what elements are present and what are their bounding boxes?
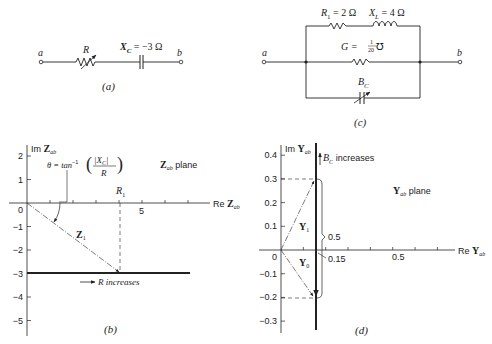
z1-label: Z1 [76,229,86,241]
y-tick-label: −2 [13,245,23,255]
y-tick-label: −0.1 [259,269,277,279]
theta-arc [54,203,60,222]
terminal-a [262,60,266,64]
xl-label: XL = 4 Ω [368,7,405,21]
span-bracket [317,179,325,298]
bc-increases-label: BC increases [323,152,375,165]
g-fraction-den: 20 [368,47,374,53]
terminal-b [179,60,183,64]
resistor-g [352,59,369,65]
r-increases-label: R increases [97,277,140,287]
panel-c-caption: (c) [354,116,367,129]
y0-label: Y0 [299,257,309,269]
capacitor-variable-arrow [354,92,370,103]
capacitor [140,55,143,69]
y1-vector [281,181,314,250]
g-unit: ℧ [376,41,384,52]
terminal-b [458,60,462,64]
x-axis-label: Re Zab [213,198,240,210]
y-tick-label: −4 [13,292,23,302]
wire [306,26,420,62]
node-b-label: b [457,47,462,58]
theta-paren-left: ( [86,154,92,175]
y-tick-label: 2 [18,151,23,161]
theta-paren-right: ) [117,154,123,175]
y-tick-label: 0.2 [264,198,277,208]
z1-vector [27,203,119,272]
node-a-label: a [38,47,43,58]
y-axis-label: Im Zab [31,143,56,155]
inductor-xl [373,22,397,27]
resistor-label: R [82,44,89,55]
resistor-r1 [329,23,346,29]
terminal-a [39,60,43,64]
g-value-label: 0.15 [328,254,346,264]
panel-a-caption: (a) [102,80,115,93]
r1-label: R1 [115,185,126,199]
plane-label: Zab plane [160,159,197,171]
y-tick-label: −1 [13,222,23,232]
y0-vector [281,250,313,296]
panel-d-chart: 0.40.30.20.1−0.1−0.2−0.3 Re Yab Im Yab 0… [259,143,485,337]
theta-denominator: R [100,168,107,178]
x-tick-label-5: 5 [139,206,144,216]
panel-b-caption: (b) [104,323,117,336]
y-tick-label: −3 [13,269,23,279]
y-tick-label: 1 [18,175,23,185]
y-tick-label: −5 [13,316,23,326]
y-tick-label: 0.3 [264,174,277,184]
bc-label: BC [358,76,369,90]
panel-b-chart: 21−1−2−3−4−5 Re Zab Im Zab 0 5 R1 Z1 θ =… [9,143,240,336]
resistor-variable-arrow [81,55,96,69]
origin-label: 0 [18,205,23,215]
y-tick-label: 0.4 [264,150,277,160]
figure-canvas: a b R XC = −3 Ω (a) a b R1 = 2 Ω XL = 4 … [0,0,492,344]
theta-numerator: |XC| [94,155,108,166]
x-axis-label: Re Yab [458,245,485,257]
node-a-label: a [262,47,267,58]
node-b-label: b [177,47,182,58]
y-tick-label: 0.1 [264,221,277,231]
g-label: G = [341,41,357,52]
g-fraction-num: 1 [370,39,373,45]
y-axis-label: Im Yab [285,143,311,155]
panel-a-circuit: a b R XC = −3 Ω (a) [38,41,183,93]
y-tick-label: −0.3 [259,316,277,326]
theta-leader [59,170,67,202]
span-label: 0.5 [328,232,341,242]
panel-d-caption: (d) [355,324,368,337]
x-tick-label-0.5: 0.5 [392,252,405,262]
panel-c-circuit: a b R1 = 2 Ω XL = 4 Ω G = 1 20 ℧ BC (c) [262,7,462,129]
origin-label: 0 [272,252,277,262]
theta-formula: θ = tan−1 [47,159,78,170]
r1-label: R1 = 2 Ω [320,7,356,21]
y1-label: Y1 [299,221,309,233]
y-tick-label: −0.2 [259,292,277,302]
plane-label: Yab plane [393,185,431,197]
capacitor-label: XC = −3 Ω [119,41,163,55]
